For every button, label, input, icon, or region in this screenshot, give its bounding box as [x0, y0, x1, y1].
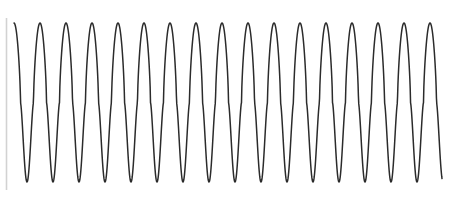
waveform-figure — [0, 0, 450, 199]
plot-canvas — [0, 0, 450, 199]
